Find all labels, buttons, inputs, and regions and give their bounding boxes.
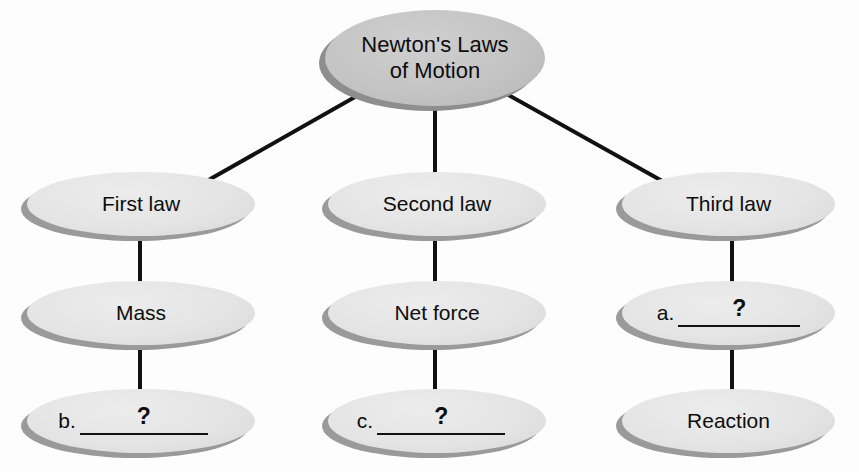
question-mark: ? — [678, 295, 800, 322]
answer-blank-rule[interactable]: ? — [678, 299, 800, 327]
edge-root-first-law — [205, 93, 362, 182]
question-mark: ? — [377, 403, 505, 430]
node-blank-b[interactable]: b. ? — [27, 389, 255, 453]
answer-blank-letter: c. — [357, 409, 377, 435]
node-label: Newton's Laws of Motion — [351, 32, 518, 84]
node-third-law[interactable]: Third law — [622, 172, 835, 236]
node-label: First law — [92, 192, 190, 217]
question-mark: ? — [80, 403, 208, 430]
answer-blank-c[interactable]: c. ? — [357, 407, 505, 435]
node-newtons-laws-of-motion[interactable]: Newton's Laws of Motion — [325, 10, 545, 106]
edge-root-third-law — [505, 93, 664, 182]
node-label: Mass — [106, 301, 176, 326]
answer-blank-b[interactable]: b. ? — [58, 407, 208, 435]
node-label: Second law — [373, 192, 502, 217]
concept-map-diagram: · · · · · · · · · · · · · · · Newton's L… — [0, 0, 859, 472]
node-mass[interactable]: Mass — [27, 281, 255, 345]
answer-blank-letter: b. — [58, 409, 80, 435]
node-first-law[interactable]: First law — [27, 172, 255, 236]
node-blank-c[interactable]: c. ? — [328, 389, 546, 453]
node-blank-a[interactable]: a. ? — [622, 281, 835, 345]
node-label: Third law — [676, 192, 781, 217]
answer-blank-rule[interactable]: ? — [80, 407, 208, 435]
answer-blank-a[interactable]: a. ? — [657, 299, 801, 327]
node-label: Reaction — [677, 409, 780, 434]
node-second-law[interactable]: Second law — [328, 172, 546, 236]
node-net-force[interactable]: Net force — [328, 281, 546, 345]
node-label: Net force — [384, 301, 489, 326]
answer-blank-rule[interactable]: ? — [377, 407, 505, 435]
answer-blank-letter: a. — [657, 301, 679, 327]
node-reaction[interactable]: Reaction — [622, 389, 835, 453]
